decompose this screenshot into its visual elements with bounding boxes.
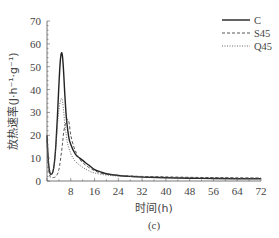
legend-item-q45: Q45	[222, 41, 272, 52]
series-line-s45	[47, 119, 261, 178]
x-tick-label: 48	[184, 185, 196, 197]
legend-item-c: C	[222, 15, 261, 26]
y-tick-label: 70	[30, 15, 42, 27]
figure-caption: (c)	[148, 219, 161, 232]
legend-label-c: C	[254, 15, 261, 26]
x-tick-label: 72	[256, 185, 267, 197]
y-tick-label: 30	[30, 106, 42, 118]
y-tick-label: 10	[30, 152, 42, 164]
x-tick-label: 16	[89, 185, 101, 197]
x-tick-label: 40	[160, 185, 172, 197]
series-line-q45	[47, 98, 261, 178]
y-axis-title: 放热速率(J·h⁻¹·g⁻¹)	[6, 52, 20, 149]
legend: C S45 Q45	[222, 15, 272, 52]
x-tick-label: 32	[137, 185, 148, 197]
x-tick-label: 64	[232, 185, 244, 197]
x-tick-label: 24	[113, 185, 125, 197]
legend-item-s45: S45	[222, 28, 270, 39]
y-tick-label: 0	[36, 175, 42, 187]
x-tick-label: 8	[68, 185, 74, 197]
plot-lines	[47, 53, 261, 179]
y-tick-label: 40	[30, 84, 42, 96]
x-tick-label: 56	[208, 185, 220, 197]
legend-label-q45: Q45	[254, 41, 272, 52]
series-line-c	[47, 53, 261, 179]
y-tick-label: 20	[30, 129, 42, 141]
heat-release-chart: 01020304050607081624324048566472 放热速率(J·…	[0, 0, 279, 238]
y-tick-label: 50	[30, 61, 42, 73]
legend-label-s45: S45	[254, 28, 270, 39]
y-tick-label: 60	[30, 38, 42, 50]
x-axis-title: 时间(h)	[135, 202, 173, 215]
